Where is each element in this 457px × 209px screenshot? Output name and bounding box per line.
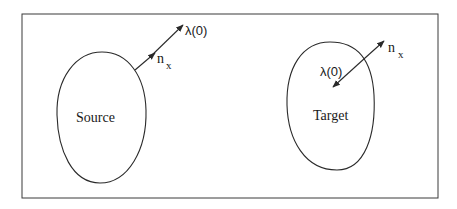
source-lambda-arrow: [150, 25, 183, 57]
target-normal-arrow: [365, 41, 384, 58]
source-region: Source λ(0) n x: [57, 23, 207, 183]
diagram-canvas: Source λ(0) n x Target λ(0) n x: [0, 0, 457, 209]
source-normal-subscript: x: [166, 59, 172, 71]
source-label: Source: [76, 110, 115, 125]
target-lambda-label: λ(0): [320, 64, 342, 79]
source-normal-label: n: [157, 51, 164, 66]
target-label: Target: [313, 108, 348, 123]
source-lambda-label: λ(0): [185, 23, 207, 38]
target-normal-subscript: x: [398, 48, 404, 60]
frame-border: [22, 14, 438, 198]
target-normal-label: n: [388, 40, 395, 55]
target-region: Target λ(0) n x: [287, 40, 404, 170]
